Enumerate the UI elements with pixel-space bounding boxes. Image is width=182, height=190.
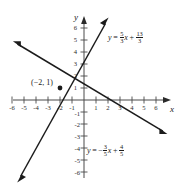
- equation1-intercept-numerator: 13: [136, 31, 143, 38]
- equation-label-line-2: y=−35x+45: [87, 144, 124, 158]
- equation2-equals: =: [92, 146, 97, 155]
- equation2-slope-variable: x: [108, 146, 112, 155]
- equation2-lhs: y: [87, 146, 91, 155]
- equation2-slope-fraction: 35: [103, 144, 107, 158]
- intersection-point-label: (−2, 1): [31, 78, 53, 87]
- equation2-slope-numerator: 3: [103, 144, 107, 151]
- equation2-plus: +: [113, 146, 118, 155]
- equation1-slope-denominator: 3: [120, 37, 124, 45]
- equation2-intercept-numerator: 4: [119, 144, 123, 151]
- equation2-intercept-denominator: 5: [119, 150, 123, 158]
- equation2-minus: −: [98, 146, 103, 155]
- equation1-equals: =: [113, 33, 118, 42]
- equation1-intercept-fraction: 133: [136, 31, 143, 45]
- equation1-slope-variable: x: [124, 33, 128, 42]
- equation1-slope-numerator: 5: [120, 31, 124, 38]
- equation2-intercept-fraction: 45: [119, 144, 123, 158]
- equation2-slope-denominator: 5: [103, 150, 107, 158]
- annotation-layer: y=53x+133 y=−35x+45 (−2, 1): [0, 0, 182, 190]
- equation1-lhs: y: [108, 33, 112, 42]
- graph-figure: x y -6 -5 -4 -3 -2 -1 1 2 3 4 5 6 6 5 4 …: [0, 0, 182, 190]
- equation1-plus: +: [129, 33, 134, 42]
- equation-label-line-1: y=53x+133: [108, 31, 144, 45]
- equation1-intercept-denominator: 3: [136, 37, 143, 45]
- equation1-slope-fraction: 53: [120, 31, 124, 45]
